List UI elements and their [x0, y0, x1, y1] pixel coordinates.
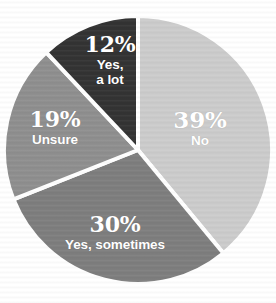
slice-label-unsure: 19% Unsure — [7, 108, 103, 147]
slice-label-yes-a-lot: 12% Yes, a lot — [73, 33, 147, 88]
slice-percent-no: 39% — [157, 108, 243, 133]
pie-chart: 39% No 30% Yes, sometimes 19% Unsure 12%… — [0, 0, 276, 303]
slice-category-yes-sometimes: Yes, sometimes — [30, 238, 200, 253]
slice-category-yes-a-lot-line1: Yes, — [73, 58, 147, 73]
slice-category-no: No — [157, 134, 243, 149]
slice-label-yes-sometimes: 30% Yes, sometimes — [30, 213, 200, 252]
slice-percent-unsure: 19% — [7, 108, 103, 132]
slice-label-no: 39% No — [157, 108, 243, 148]
slice-category-yes-a-lot-line2: a lot — [73, 73, 147, 88]
slice-category-unsure: Unsure — [7, 133, 103, 148]
slice-percent-yes-sometimes: 30% — [30, 213, 200, 237]
slice-percent-yes-a-lot: 12% — [73, 33, 147, 57]
